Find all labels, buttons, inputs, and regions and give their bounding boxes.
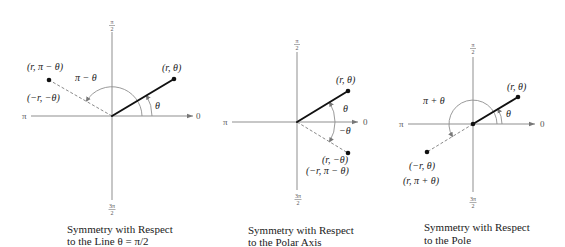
figure-polar-axis-symmetry: (r, θ) θ −θ (r, −θ) (−r, π − θ) π 0 π 2 … (223, 38, 368, 247)
axis-label-3pi-over-2: 3π 2 (295, 193, 302, 206)
label-point-reflected-alt: (−r, −θ) (27, 92, 61, 104)
label-point-reflected-alt: (−r, π − θ) (306, 165, 350, 177)
point-reflected (47, 78, 52, 83)
label-angle-reflected: π − θ (75, 72, 97, 83)
axis-label-pi-over-2: π 2 (294, 38, 300, 51)
point-original (172, 77, 177, 82)
fraction-numerator: π (295, 38, 298, 44)
fraction-numerator: 3π (470, 196, 476, 202)
caption-line-1: Symmetry with Respect (424, 221, 530, 233)
axis-label-3pi-over-2: 3π 2 (109, 203, 116, 216)
fraction-numerator: π (110, 19, 113, 25)
label-angle-theta: θ (343, 103, 348, 114)
label-angle-reflected: π + θ (423, 95, 445, 106)
figure-line-symmetry: (r, π − θ) π − θ (−r, −θ) (r, θ) θ π 0 π… (22, 19, 201, 247)
fraction-denominator: 2 (472, 49, 475, 55)
label-point-original: (r, θ) (507, 81, 527, 93)
fraction-denominator: 2 (111, 210, 114, 216)
label-point-reflected: (−r, θ) (409, 160, 436, 172)
fraction-denominator: 2 (297, 200, 300, 206)
axis-label-zero: 0 (540, 119, 545, 129)
label-point-reflected-alt: (r, π + θ) (403, 175, 440, 187)
label-point-reflected: (r, π − θ) (27, 61, 64, 73)
fraction-denominator: 2 (111, 26, 114, 32)
fraction-denominator: 2 (296, 45, 299, 51)
axis-label-zero: 0 (196, 111, 201, 121)
angle-arc-theta (498, 109, 502, 124)
axis-label-pi-over-2: π 2 (470, 42, 476, 55)
axis-label-pi: π (22, 111, 27, 121)
angle-arc-pi-minus-theta (87, 87, 143, 116)
pole-point (471, 122, 476, 127)
caption-line-1: Symmetry with Respect (248, 224, 354, 236)
reflected-radius-dashed (427, 124, 473, 152)
fraction-numerator: 3π (109, 203, 115, 209)
label-angle-reflected: −θ (339, 125, 351, 136)
axis-label-3pi-over-2: 3π 2 (470, 196, 477, 209)
polar-symmetry-diagram: (r, π − θ) π − θ (−r, −θ) (r, θ) θ π 0 π… (0, 0, 565, 247)
point-reflected (425, 150, 430, 155)
axis-label-pi: π (399, 119, 404, 129)
original-radius (297, 91, 348, 122)
original-radius (112, 79, 174, 116)
fraction-denominator: 2 (472, 203, 475, 209)
label-angle-theta: θ (155, 100, 160, 111)
label-angle-theta: θ (506, 108, 511, 119)
point-original (346, 89, 351, 94)
figure-pole-symmetry: (r, θ) π + θ θ (−r, θ) (r, π + θ) π 0 π … (399, 42, 545, 246)
angle-arc-theta (147, 96, 153, 117)
label-point-original: (r, θ) (162, 62, 182, 74)
fraction-numerator: π (471, 42, 474, 48)
caption-line-2: to the Line θ = π/2 (67, 235, 149, 247)
label-point-original: (r, θ) (336, 74, 356, 86)
caption-line-1: Symmetry with Respect (67, 223, 173, 235)
axis-label-zero: 0 (363, 117, 368, 127)
point-original (516, 95, 521, 100)
caption-line-2: to the Pole (424, 234, 471, 246)
axis-label-pi: π (223, 117, 228, 127)
axis-label-pi-over-2: π 2 (109, 19, 115, 32)
caption-line-2: to the Polar Axis (248, 236, 322, 247)
fraction-numerator: 3π (295, 193, 301, 199)
